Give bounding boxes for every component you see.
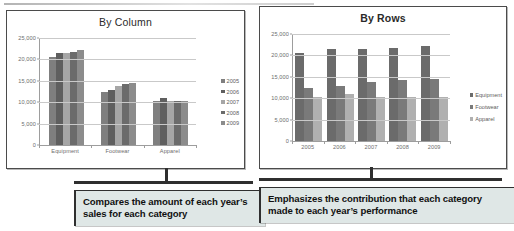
bar — [49, 57, 56, 145]
bar-group — [419, 34, 450, 141]
legend-label: 2005 — [227, 78, 239, 84]
bar — [358, 49, 367, 141]
y-tickmark — [290, 55, 292, 56]
chart-panel-by-rows: By Rows 05,00010,00015,00020,00025,000 2… — [259, 6, 507, 169]
y-axis-tick-label: 15,000 — [18, 78, 36, 84]
bar — [327, 49, 336, 141]
legend-label: Apparel — [475, 116, 494, 122]
x-axis-tick-label: 2008 — [387, 144, 419, 150]
y-axis-tick-label: 25,000 — [18, 35, 36, 41]
bar-group — [387, 34, 418, 141]
legend-swatch-icon — [470, 105, 474, 109]
legend-label: Footwear — [475, 104, 498, 110]
bar — [63, 53, 70, 145]
gridline — [292, 77, 450, 78]
legend-swatch-icon — [221, 90, 225, 94]
y-tickmark — [290, 98, 292, 99]
legend-item: Apparel — [470, 116, 502, 122]
bar — [129, 83, 136, 145]
legend-item: 2006 — [221, 89, 239, 95]
bar-series-group — [293, 34, 450, 141]
callout-connector-horizontal-right — [259, 178, 502, 181]
y-tickmark — [37, 102, 39, 103]
x-tickmark — [450, 141, 451, 144]
bar-group — [324, 34, 355, 141]
y-axis-tick-label: 0 — [33, 142, 36, 148]
bar — [389, 48, 398, 141]
bar — [70, 52, 77, 145]
y-tickmark — [37, 59, 39, 60]
legend-item: Equipment — [470, 92, 502, 98]
callout-left: Compares the amount of each year’s sales… — [74, 190, 265, 226]
bar-group — [92, 38, 144, 145]
bar — [367, 82, 376, 141]
legend-swatch-icon — [221, 100, 225, 104]
bar — [56, 53, 63, 145]
plot-area-by-column: 05,00010,00015,00020,00025,000 Equipment… — [7, 32, 244, 168]
bar — [430, 79, 439, 141]
y-axis-tick-label: 10,000 — [18, 99, 36, 105]
gridline — [39, 102, 196, 103]
bar-group — [40, 38, 92, 145]
y-axis-tick-label: 15,000 — [271, 74, 289, 80]
x-axis-labels: EquipmentFootwearApparel — [39, 148, 196, 154]
legend-swatch-icon — [221, 111, 225, 115]
bar-group — [144, 38, 196, 145]
callout-right: Emphasizes the contribution that each ca… — [259, 187, 514, 223]
gridline — [292, 55, 450, 56]
legend-item: 2009 — [221, 120, 239, 126]
x-axis-tick-label: 2007 — [355, 144, 387, 150]
chart-legend-by-column: 20052006200720082009 — [221, 78, 239, 126]
bar — [345, 94, 354, 141]
x-axis-tick-label: Apparel — [144, 148, 196, 154]
chart-title-by-column: By Column — [7, 11, 244, 28]
chart-legend-by-rows: EquipmentFootwearApparel — [470, 92, 502, 122]
legend-swatch-icon — [221, 79, 225, 83]
legend-label: 2007 — [227, 99, 239, 105]
gridline — [292, 34, 450, 35]
chart-panel-by-column: By Column 05,00010,00015,00020,00025,000… — [6, 10, 245, 169]
legend-item: 2008 — [221, 110, 239, 116]
y-tickmark — [37, 123, 39, 124]
bar-group — [356, 34, 387, 141]
bar — [295, 53, 304, 141]
bar — [101, 92, 108, 146]
bar — [108, 90, 115, 145]
legend-label: 2008 — [227, 110, 239, 116]
legend-item: 2005 — [221, 78, 239, 84]
callout-connector-horizontal-left — [74, 181, 253, 184]
gridline — [39, 38, 196, 39]
x-axis-labels: 20052006200720082009 — [292, 144, 450, 150]
y-tickmark — [290, 76, 292, 77]
bar — [122, 84, 129, 145]
legend-label: 2006 — [227, 89, 239, 95]
y-tickmark — [37, 80, 39, 81]
axis-area-by-rows: 05,00010,00015,00020,00025,000 — [292, 34, 450, 141]
x-axis-tick-label: Equipment — [39, 148, 91, 154]
gridline — [39, 59, 196, 60]
legend-item: Footwear — [470, 104, 502, 110]
bar — [398, 80, 407, 141]
plot-area-by-rows: 05,00010,00015,00020,00025,000 200520062… — [260, 28, 506, 168]
axis-area-by-column: 05,00010,00015,00020,00025,000 — [39, 38, 196, 145]
y-tickmark — [290, 119, 292, 120]
legend-swatch-icon — [221, 121, 225, 125]
x-axis-tick-label: Footwear — [91, 148, 143, 154]
y-axis-tick-label: 5,000 — [275, 117, 290, 123]
x-axis-tick-label: 2005 — [292, 144, 324, 150]
callout-right-text: Emphasizes the contribution that each ca… — [268, 193, 508, 217]
gridline — [39, 81, 196, 82]
legend-swatch-icon — [470, 117, 474, 121]
gridline — [292, 120, 450, 121]
y-axis-tick-label: 20,000 — [18, 56, 36, 62]
y-axis-tick-label: 10,000 — [271, 95, 289, 101]
y-tickmark — [290, 34, 292, 35]
x-axis-tick-label: 2009 — [418, 144, 450, 150]
y-axis-tick-label: 25,000 — [271, 31, 289, 37]
bar-group — [293, 34, 324, 141]
x-axis-tick-label: 2006 — [324, 144, 356, 150]
y-axis-tick-label: 5,000 — [22, 121, 37, 127]
y-axis-tick-label: 20,000 — [271, 52, 289, 58]
callout-connector-vertical-left — [165, 168, 168, 182]
